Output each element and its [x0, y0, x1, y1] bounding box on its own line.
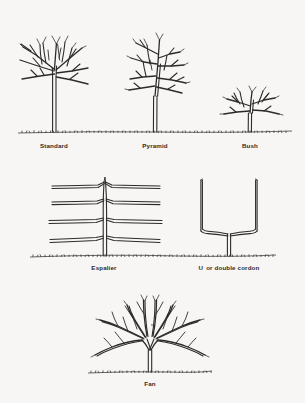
caption-u-cordon: Uor double cordon	[199, 265, 260, 271]
diagram-espalier	[49, 177, 162, 256]
caption-pyramid: Pyramid	[142, 143, 167, 149]
caption-u-cordon-lead: U	[199, 264, 204, 271]
tree-standard	[20, 36, 88, 132]
caption-u-cordon-rest: or double cordon	[206, 264, 259, 271]
tree-bush	[220, 86, 283, 132]
caption-fan: Fan	[144, 381, 155, 387]
caption-espalier: Espalier	[91, 265, 116, 271]
tree-forms-illustration: .ink { fill:none; stroke:#2b2b2b; stroke…	[0, 0, 305, 403]
ground-line-row3	[88, 370, 212, 373]
ground-line-row2	[30, 254, 276, 257]
caption-bush: Bush	[242, 143, 258, 149]
caption-standard: Standard	[40, 143, 68, 149]
diagram-u-cordon	[201, 179, 257, 256]
figure-canvas: .ink { fill:none; stroke:#2b2b2b; stroke…	[0, 0, 305, 403]
tree-pyramid	[125, 33, 190, 132]
diagram-fan	[91, 295, 209, 372]
